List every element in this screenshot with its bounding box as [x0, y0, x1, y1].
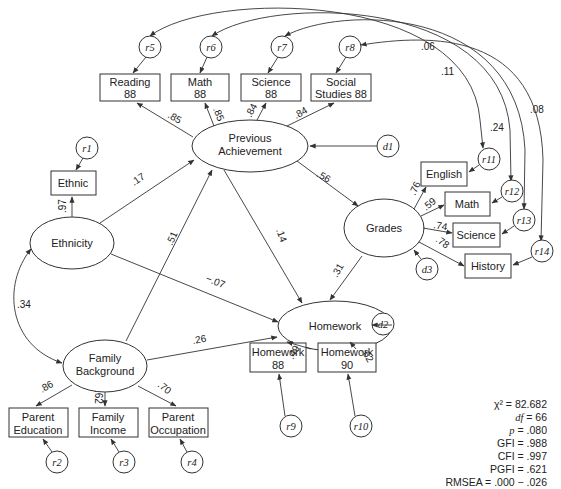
- stat-chi-square: χ² = 82.682: [445, 398, 547, 411]
- fit-statistics: χ² = 82.682 df = 66 p = .080 GFI = .988 …: [445, 398, 547, 489]
- stat-cfi: CFI = .997: [445, 450, 547, 463]
- stat-df: df = 66: [445, 411, 547, 424]
- stat-gfi: GFI = .988: [445, 437, 547, 450]
- stat-p: p = .080: [445, 424, 547, 437]
- stat-pgfi: PGFI = .621: [445, 463, 547, 476]
- stat-rmsea: RMSEA = .000 − .026: [445, 476, 547, 489]
- coef-hw-hw90: .62: [359, 347, 376, 365]
